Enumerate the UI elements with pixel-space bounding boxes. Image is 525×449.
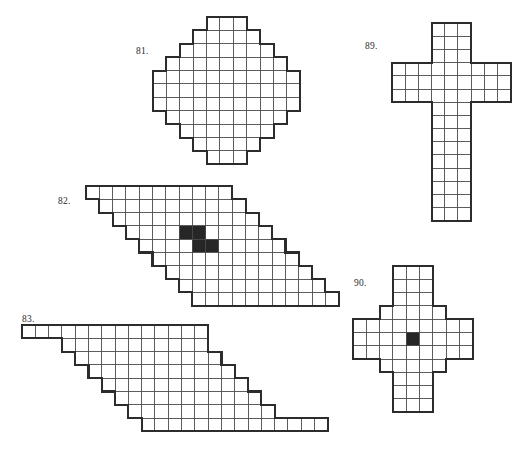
grid-cell xyxy=(301,418,314,431)
figure-90 xyxy=(353,266,473,412)
grid-cell xyxy=(128,365,141,378)
grid-cell xyxy=(445,115,458,128)
grid-cell xyxy=(99,199,112,212)
grid-cell xyxy=(126,226,139,239)
grid-cell xyxy=(235,391,248,404)
grid-cell xyxy=(219,226,232,239)
grid-cell xyxy=(208,391,221,404)
grid-cell xyxy=(180,44,193,57)
grid-cell xyxy=(220,44,233,57)
grid-cell xyxy=(152,199,165,212)
grid-cell xyxy=(195,391,208,404)
grid-cell xyxy=(419,386,432,399)
grid-cell xyxy=(207,151,220,164)
grid-cell xyxy=(113,213,126,226)
grid-cell xyxy=(366,346,379,359)
grid-cell xyxy=(180,97,193,110)
figure-81-cells xyxy=(153,17,300,164)
grid-cell xyxy=(192,199,205,212)
grid-cell xyxy=(260,111,273,124)
grid-cell xyxy=(155,418,168,431)
grid-cell xyxy=(406,386,419,399)
grid-cell xyxy=(498,76,511,89)
grid-cell xyxy=(142,365,155,378)
grid-cell xyxy=(393,319,406,332)
grid-cell xyxy=(192,279,205,292)
figure-83-label: 83. xyxy=(22,314,34,324)
grid-cell xyxy=(115,325,128,338)
grid-cell xyxy=(393,399,406,412)
grid-cell xyxy=(195,418,208,431)
grid-cell xyxy=(393,359,406,372)
grid-cell xyxy=(445,49,458,62)
grid-cell xyxy=(179,266,192,279)
grid-cell xyxy=(115,378,128,391)
grid-cell xyxy=(285,292,298,305)
grid-cell xyxy=(195,405,208,418)
grid-cell xyxy=(220,17,233,30)
grid-cell xyxy=(102,338,115,351)
grid-cell xyxy=(142,391,155,404)
grid-cell xyxy=(219,199,232,212)
grid-cell xyxy=(153,84,166,97)
grid-cell xyxy=(166,97,179,110)
grid-cell xyxy=(445,76,458,89)
grid-cell xyxy=(259,226,272,239)
figure-83 xyxy=(22,325,328,431)
grid-cell xyxy=(366,332,379,345)
grid-cell xyxy=(139,213,152,226)
grid-cell xyxy=(180,71,193,84)
grid-cell xyxy=(207,44,220,57)
grid-cell xyxy=(193,71,206,84)
figure-89-cells xyxy=(392,23,511,221)
grid-cell xyxy=(247,124,260,137)
grid-cell xyxy=(220,97,233,110)
grid-cell xyxy=(366,319,379,332)
grid-cell xyxy=(445,181,458,194)
grid-cell xyxy=(353,319,366,332)
grid-cell xyxy=(220,124,233,137)
grid-cell xyxy=(168,352,181,365)
grid-cell xyxy=(325,292,338,305)
grid-cell xyxy=(312,279,325,292)
grid-cell xyxy=(192,266,205,279)
grid-cell xyxy=(179,213,192,226)
grid-cell xyxy=(272,279,285,292)
grid-cell xyxy=(89,325,102,338)
grid-cell xyxy=(458,76,471,89)
grid-cell xyxy=(445,168,458,181)
grid-cell xyxy=(419,372,432,385)
grid-cell xyxy=(193,124,206,137)
grid-cell xyxy=(419,359,432,372)
grid-cell xyxy=(62,338,75,351)
grid-cell xyxy=(272,252,285,265)
grid-cell xyxy=(179,239,192,252)
grid-cell xyxy=(219,239,232,252)
grid-cell xyxy=(406,319,419,332)
grid-cell xyxy=(419,279,432,292)
grid-cell xyxy=(206,199,219,212)
grid-cell xyxy=(128,338,141,351)
grid-cell xyxy=(182,338,195,351)
grid-cell xyxy=(126,186,139,199)
grid-cell xyxy=(207,57,220,70)
grid-cell xyxy=(166,111,179,124)
grid-cell xyxy=(287,71,300,84)
grid-cell xyxy=(233,124,246,137)
grid-cell xyxy=(195,338,208,351)
grid-cell xyxy=(432,76,445,89)
grid-cell xyxy=(235,405,248,418)
grid-cell xyxy=(193,30,206,43)
grid-cell xyxy=(99,186,112,199)
grid-cell xyxy=(458,49,471,62)
grid-cell xyxy=(445,36,458,49)
grid-cell xyxy=(206,279,219,292)
grid-cell xyxy=(393,306,406,319)
grid-cell xyxy=(182,405,195,418)
grid-cell xyxy=(458,23,471,36)
grid-cell xyxy=(418,76,431,89)
grid-cell-filled xyxy=(406,332,419,345)
grid-cell xyxy=(102,325,115,338)
grid-cell xyxy=(233,111,246,124)
grid-cell xyxy=(232,292,245,305)
